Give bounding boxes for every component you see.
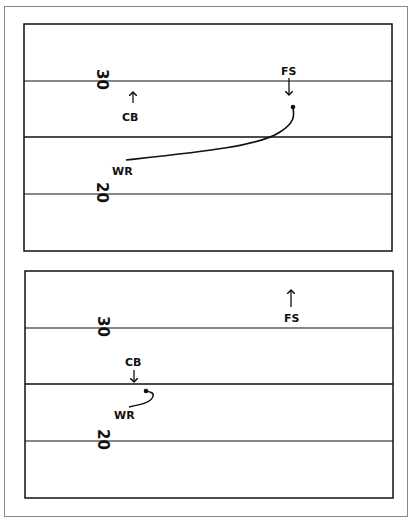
fs-label: FS bbox=[284, 312, 300, 325]
cb-label: CB bbox=[122, 111, 138, 124]
yard-number-30: 30 bbox=[93, 69, 111, 90]
wr-route bbox=[129, 391, 153, 407]
yard-number-20: 20 bbox=[94, 429, 112, 450]
field-diagram-bottom: 30 20 FS CB WR bbox=[25, 271, 393, 498]
wr-route bbox=[126, 108, 294, 160]
cb-label: CB bbox=[125, 356, 141, 369]
route-endpoint bbox=[144, 389, 149, 394]
yard-number-20: 20 bbox=[93, 182, 111, 203]
yard-number-30: 30 bbox=[94, 316, 112, 337]
wr-label: WR bbox=[112, 165, 133, 178]
route-endpoint bbox=[291, 105, 296, 110]
field-diagram-top: 30 20 CB FS WR bbox=[24, 24, 392, 251]
play-diagrams: 30 20 CB FS WR 30 20 FS CB WR bbox=[0, 0, 415, 522]
wr-label: WR bbox=[114, 409, 135, 422]
fs-label: FS bbox=[281, 65, 297, 78]
